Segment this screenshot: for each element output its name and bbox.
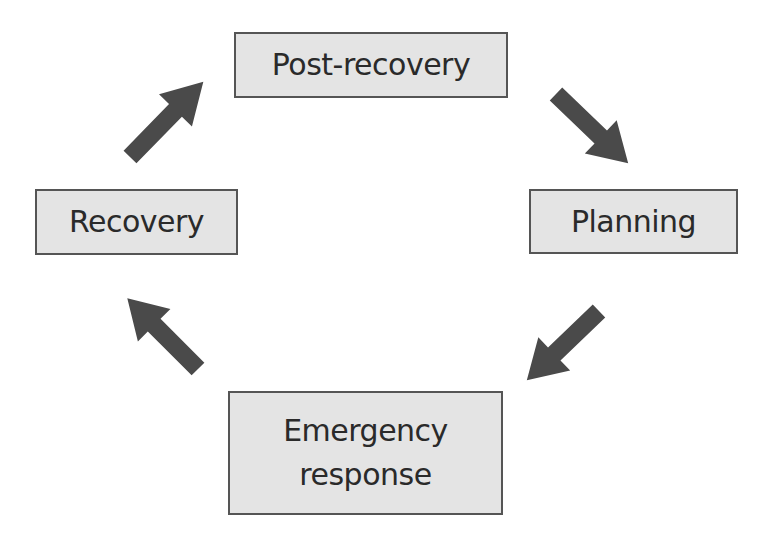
arrow-down-right-icon bbox=[540, 77, 644, 179]
node-post-recovery: Post-recovery bbox=[234, 32, 508, 98]
node-planning: Planning bbox=[529, 189, 738, 254]
arrow-down-left-icon bbox=[511, 294, 615, 396]
arrow-up-left-icon bbox=[111, 282, 214, 385]
node-label: Planning bbox=[571, 200, 696, 244]
node-label-line-1: Emergency bbox=[283, 409, 448, 453]
node-label-line-2: response bbox=[299, 453, 431, 497]
node-label: Post-recovery bbox=[272, 43, 470, 87]
cycle-diagram: Post-recovery Planning Emergency respons… bbox=[0, 0, 762, 543]
node-emergency-response: Emergency response bbox=[228, 391, 503, 515]
arrow-up-right-icon bbox=[114, 66, 220, 173]
node-label: Recovery bbox=[69, 200, 204, 244]
node-recovery: Recovery bbox=[35, 189, 238, 255]
